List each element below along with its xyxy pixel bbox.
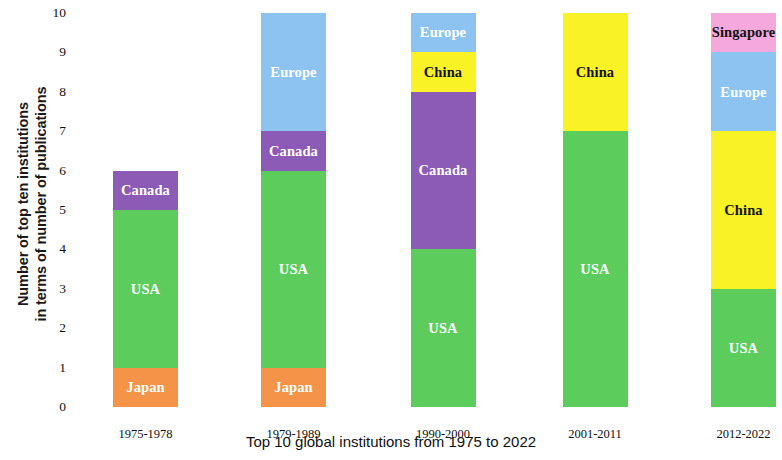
segment-label: USA [580,262,609,277]
segment-label: China [424,65,462,80]
segment-label: China [576,65,614,80]
bar-group-1975-1978: JapanUSACanada [113,13,178,407]
segment-label: China [724,203,762,218]
x-axis-title: Top 10 global institutions from 1975 to … [0,433,782,450]
segment-label: Japan [126,380,164,395]
segment-label: Canada [269,144,318,159]
segment-label: USA [131,282,160,297]
bar-segment-europe[interactable]: Europe [411,13,476,52]
y-axis-tick-7: 7 [36,123,66,139]
bar-group-1990-2000: USACanadaChinaEurope [411,13,476,407]
bar-stack: USAChinaEuropeSingapore [711,13,776,407]
segment-label: Canada [121,183,170,198]
y-axis-tick-1: 1 [36,360,66,376]
plot-area: JapanUSACanada1975-1978JapanUSACanadaEur… [75,13,782,407]
y-axis-tick-0: 0 [36,399,66,415]
y-axis-tick-9: 9 [36,44,66,60]
bar-segment-usa[interactable]: USA [563,131,628,407]
segment-label: Europe [720,85,766,100]
bar-stack: USACanadaChinaEurope [411,13,476,407]
segment-label: USA [279,262,308,277]
y-axis-tick-6: 6 [36,163,66,179]
segment-label: Canada [419,163,468,178]
segment-label: USA [729,341,758,356]
segment-label: Europe [420,25,466,40]
bar-segment-europe[interactable]: Europe [261,13,326,131]
bar-segment-japan[interactable]: Japan [261,368,326,407]
stacked-bar-chart: Number of top ten institutions in terms … [0,0,782,460]
bar-segment-china[interactable]: China [411,52,476,91]
segment-label: Japan [274,380,312,395]
bar-segment-canada[interactable]: Canada [113,171,178,210]
bar-segment-canada[interactable]: Canada [411,92,476,250]
y-axis-tick-5: 5 [36,202,66,218]
bar-group-1979-1989: JapanUSACanadaEurope [261,13,326,407]
bar-stack: JapanUSACanadaEurope [261,13,326,407]
bar-segment-china[interactable]: China [563,13,628,131]
bar-segment-usa[interactable]: USA [261,171,326,368]
y-axis-title-line-1: Number of top ten institutions [15,102,33,306]
segment-label: Singapore [712,25,775,40]
bar-segment-singapore[interactable]: Singapore [711,13,776,52]
y-axis-tick-10: 10 [36,5,66,21]
y-axis-tick-labels: 012345678910 [36,0,66,460]
segment-label: Europe [270,65,316,80]
bar-segment-canada[interactable]: Canada [261,131,326,170]
bar-group-2001-2011: USAChina [563,13,628,407]
bar-stack: USAChina [563,13,628,407]
bar-segment-usa[interactable]: USA [711,289,776,407]
bar-group-2012-2022: USAChinaEuropeSingapore [711,13,776,407]
segment-label: USA [428,321,457,336]
bar-segment-japan[interactable]: Japan [113,368,178,407]
y-axis-tick-3: 3 [36,281,66,297]
bar-segment-usa[interactable]: USA [113,210,178,368]
y-axis-tick-2: 2 [36,320,66,336]
bar-segment-china[interactable]: China [711,131,776,289]
bar-stack: JapanUSACanada [113,171,178,407]
bar-segment-usa[interactable]: USA [411,249,476,407]
bar-segment-europe[interactable]: Europe [711,52,776,131]
y-axis-tick-8: 8 [36,84,66,100]
y-axis-tick-4: 4 [36,241,66,257]
